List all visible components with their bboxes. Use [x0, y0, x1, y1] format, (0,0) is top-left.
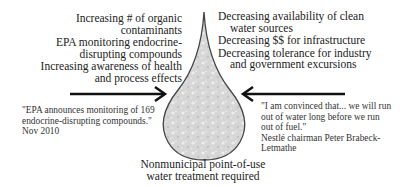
left-factor-line: Increasing # of organic — [2, 13, 182, 25]
quote-attribution: Letmathe — [261, 143, 401, 154]
quote-line: "EPA announces monitoring of 169 — [22, 105, 172, 116]
quote-line: out of water long before we run — [261, 112, 401, 123]
right-factor-item: Decreasing tolerance for industry and go… — [218, 48, 408, 71]
left-factor-line: Increasing awareness of health — [2, 61, 182, 73]
conclusion-line: Nonmunicipal point-of-use — [120, 159, 286, 171]
left-arrow-icon — [70, 87, 165, 101]
left-factor-line: EPA monitoring endocrine- — [2, 37, 182, 49]
quote-line: "I am convinced that... we will run — [261, 101, 401, 112]
right-factor-line: Decreasing availability of clean — [230, 11, 408, 23]
right-factor-line: Decreasing $$ for infrastructure — [230, 35, 408, 47]
right-factors-list: Decreasing availability of clean water s… — [218, 11, 408, 72]
left-factors-list: Increasing # of organic contaminants EPA… — [2, 13, 182, 85]
epa-quote: "EPA announces monitoring of 169 endocri… — [22, 105, 172, 137]
right-factor-line: water sources — [230, 23, 408, 35]
right-factor-item: Decreasing availability of clean water s… — [218, 11, 408, 34]
left-factor-line: contaminants — [2, 25, 182, 37]
quote-line: out of fuel." — [261, 122, 401, 133]
left-factor-item: Increasing awareness of health and proce… — [2, 61, 182, 84]
conclusion-label: Nonmunicipal point-of-use water treatmen… — [120, 159, 286, 182]
conclusion-line: water treatment required — [120, 171, 286, 183]
left-factor-line: disrupting compounds — [2, 49, 182, 61]
quote-attribution: Nestlé chairman Peter Brabeck- — [261, 133, 401, 144]
right-arrow-icon — [243, 87, 345, 101]
left-factor-line: and process effects — [2, 73, 182, 85]
right-factor-item: Decreasing $$ for infrastructure — [218, 35, 408, 47]
quote-line: endocrine-disrupting compounds." — [22, 116, 172, 127]
quote-date: Nov 2010 — [22, 126, 172, 137]
left-factor-item: EPA monitoring endocrine- disrupting com… — [2, 37, 182, 60]
left-factor-item: Increasing # of organic contaminants — [2, 13, 182, 36]
nestle-quote: "I am convinced that... we will run out … — [261, 101, 401, 154]
right-factor-line: and government excursions — [230, 59, 408, 71]
